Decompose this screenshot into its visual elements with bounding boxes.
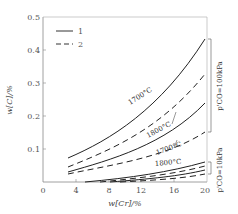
x-tick-4: 4 (73, 186, 78, 195)
x-axis-label: w[Cr]/% (108, 199, 142, 208)
annotation-1800-low: 1800°C (154, 158, 181, 168)
x-tick-16: 16 (169, 186, 179, 195)
legend-label-1: 1 (78, 27, 83, 36)
legend-label-2: 2 (78, 40, 83, 49)
annotation-1800-top: 1800°C (145, 120, 172, 140)
y-tick-0.4: 0.4 (27, 46, 40, 55)
curve-low-1800-dashed (120, 174, 205, 182)
y-tick-0.3: 0.3 (27, 79, 40, 88)
y-tick-0.2: 0.2 (27, 112, 40, 121)
y-ticks (43, 50, 46, 149)
chart: 0.1 0.2 0.3 0.4 0.5 0 4 8 12 16 20 w[Cr]… (0, 0, 238, 214)
curve-1700-dashed (68, 74, 205, 167)
leader-1800-top (172, 112, 176, 124)
bracket-10kPa (208, 162, 211, 174)
bracket-100kPa (208, 39, 211, 132)
label-p100kPa: p'CO=100kPa (216, 61, 224, 111)
annotation-1700-top: 1700°C (127, 86, 154, 107)
y-tick-0.1: 0.1 (27, 145, 40, 154)
x-tick-0: 0 (40, 186, 45, 195)
annotation-1700-mid: 1700°C (155, 140, 183, 157)
x-tick-8: 8 (106, 186, 111, 195)
x-tick-12: 12 (136, 186, 146, 195)
y-axis-label: w[C]/% (5, 85, 14, 115)
label-p10kPa: p'CO=10kPa (216, 147, 224, 192)
curve-1800-solid (68, 103, 205, 172)
y-tick-0.5: 0.5 (27, 13, 40, 22)
x-tick-20: 20 (200, 186, 210, 195)
